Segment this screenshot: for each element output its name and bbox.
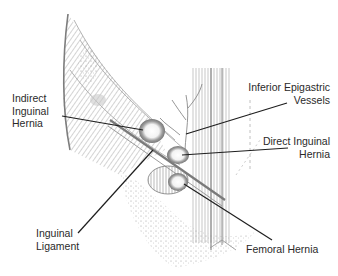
label-inguinal-ligament: Inguinal Ligament	[36, 227, 79, 252]
label-femoral-hernia: Femoral Hernia	[246, 243, 318, 256]
hernia-diagram: Indirect Inguinal Hernia Inferior Epigas…	[0, 0, 338, 276]
label-inferior-epigastric-vessels: Inferior Epigastric Vessels	[248, 81, 330, 106]
label-direct-inguinal-hernia: Direct Inguinal Hernia	[263, 135, 330, 160]
abdominal-wall	[63, 14, 185, 175]
label-indirect-inguinal-hernia: Indirect Inguinal Hernia	[12, 92, 49, 130]
femoral-hernia-sac	[148, 166, 188, 194]
rectus-muscle	[192, 68, 250, 250]
indirect-hernia-sac	[139, 119, 165, 143]
